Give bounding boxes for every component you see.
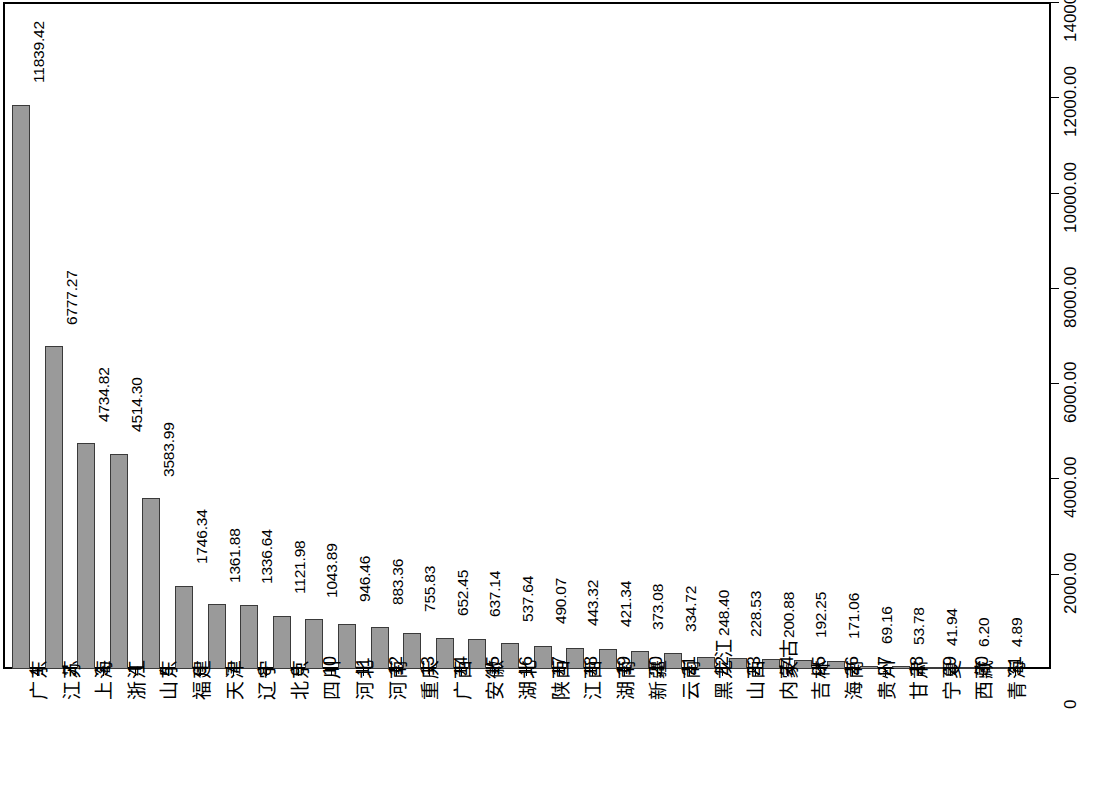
x-category-label-北京: 北京 [291, 658, 310, 700]
y-tick [1051, 574, 1059, 575]
bar-rect [175, 586, 193, 669]
bar-value-label: 1121.98 [292, 541, 308, 594]
bar-value-label: 3583.99 [161, 422, 177, 477]
x-category-label-湖北: 湖北 [519, 658, 538, 700]
x-category-label-江苏: 江苏 [63, 658, 82, 700]
bar-value-label: 1043.89 [324, 543, 340, 598]
y-tick [1051, 97, 1059, 98]
x-category-label-山东: 山东 [160, 658, 179, 700]
bar-value-label: 1336.64 [259, 529, 275, 584]
bar-rect [45, 346, 63, 669]
x-category-label-天津: 天津 [226, 658, 245, 700]
x-category-label-青海: 青海 [1008, 658, 1027, 700]
x-category-label-河北: 河北 [356, 658, 375, 700]
x-category-label-辽宁: 辽宁 [258, 658, 277, 700]
x-category-label-海南: 海南 [845, 658, 864, 700]
bar-value-label: 200.88 [781, 592, 797, 638]
bar-value-label: 1361.88 [227, 528, 243, 583]
x-category-label-江西: 江西 [584, 658, 603, 700]
x-category-label-浙江: 浙江 [128, 658, 147, 700]
bar-value-label: 6.20 [976, 617, 992, 646]
bar-value-label: 946.46 [357, 556, 373, 602]
bar-value-label: 490.07 [553, 578, 569, 624]
y-tick [1051, 193, 1059, 194]
x-category-label-甘肃: 甘肃 [910, 658, 929, 700]
bars-layer: 11839.426777.274734.824514.303583.991746… [3, 2, 1051, 669]
bar-value-label: 11839.42 [31, 22, 47, 84]
x-category-label-西藏: 西藏 [975, 658, 994, 700]
x-category-label-陕西: 陕西 [552, 658, 571, 700]
x-category-label-宁夏: 宁夏 [943, 658, 962, 700]
x-category-label-内蒙古: 内蒙古 [780, 637, 799, 700]
bar-value-label: 637.14 [487, 571, 503, 617]
x-category-label-云南: 云南 [682, 658, 701, 700]
bar-value-label: 883.36 [390, 559, 406, 605]
x-category-label-山西: 山西 [747, 658, 766, 700]
bar-rect [12, 105, 30, 669]
y-axis-label-0: 0 [1062, 700, 1079, 709]
bar-value-label: 192.25 [813, 592, 829, 638]
bar-value-label: 421.34 [618, 581, 634, 627]
y-tick [1051, 478, 1059, 479]
bar-value-label: 228.53 [748, 590, 764, 636]
x-category-label-安徽: 安徽 [486, 658, 505, 700]
bar-value-label: 171.06 [846, 593, 862, 639]
bar-value-label: 443.32 [585, 580, 601, 626]
y-axis-label-10000.00: 10000.00 [1062, 162, 1079, 233]
bar-value-label: 4.89 [1009, 617, 1025, 646]
x-category-label-湖南: 湖南 [617, 658, 636, 700]
x-category-label-新疆: 新疆 [649, 658, 668, 700]
bar-value-label: 41.94 [944, 608, 960, 646]
x-category-label-贵州: 贵州 [878, 658, 897, 700]
bar-value-label: 53.78 [911, 607, 927, 645]
bar-value-label: 334.72 [683, 585, 699, 631]
x-category-label-四川: 四川 [323, 658, 342, 700]
y-axis-label-14000.00: 14000.00 [1062, 0, 1079, 42]
y-axis-label-2000.00: 2000.00 [1062, 552, 1079, 613]
y-axis-label-6000.00: 6000.00 [1062, 362, 1079, 423]
bar-value-label: 652.45 [455, 570, 471, 616]
bar-value-label: 755.83 [422, 565, 438, 611]
y-axis-label-12000.00: 12000.00 [1062, 66, 1079, 137]
x-category-label-广东: 广东 [30, 658, 49, 700]
bar-value-label: 4734.82 [96, 367, 112, 422]
x-category-label-广西: 广西 [454, 658, 473, 700]
x-category-label-上海: 上海 [95, 658, 114, 700]
chart-container: 11839.426777.274734.824514.303583.991746… [0, 0, 1105, 787]
x-category-label-吉林: 吉林 [812, 658, 831, 700]
bar-value-label: 373.08 [650, 584, 666, 630]
bar-rect [110, 454, 128, 669]
bar-value-label: 537.64 [520, 576, 536, 622]
y-tick [1051, 383, 1059, 384]
bar-value-label: 69.16 [879, 606, 895, 644]
bar-value-label: 4514.30 [129, 378, 145, 433]
bar-rect [142, 498, 160, 669]
y-tick [1051, 2, 1059, 3]
bar-value-label: 6777.27 [64, 270, 80, 325]
y-axis-label-4000.00: 4000.00 [1062, 457, 1079, 518]
x-category-label-重庆: 重庆 [421, 658, 440, 700]
y-axis-label-8000.00: 8000.00 [1062, 266, 1079, 327]
bar-rect [77, 443, 95, 669]
x-category-label-河南: 河南 [389, 658, 408, 700]
x-category-label-福建: 福建 [193, 658, 212, 700]
y-tick [1051, 288, 1059, 289]
bar-value-label: 1746.34 [194, 510, 210, 565]
x-category-label-黑龙江: 黑龙江 [715, 637, 734, 700]
bar-value-label: 248.40 [716, 589, 732, 635]
